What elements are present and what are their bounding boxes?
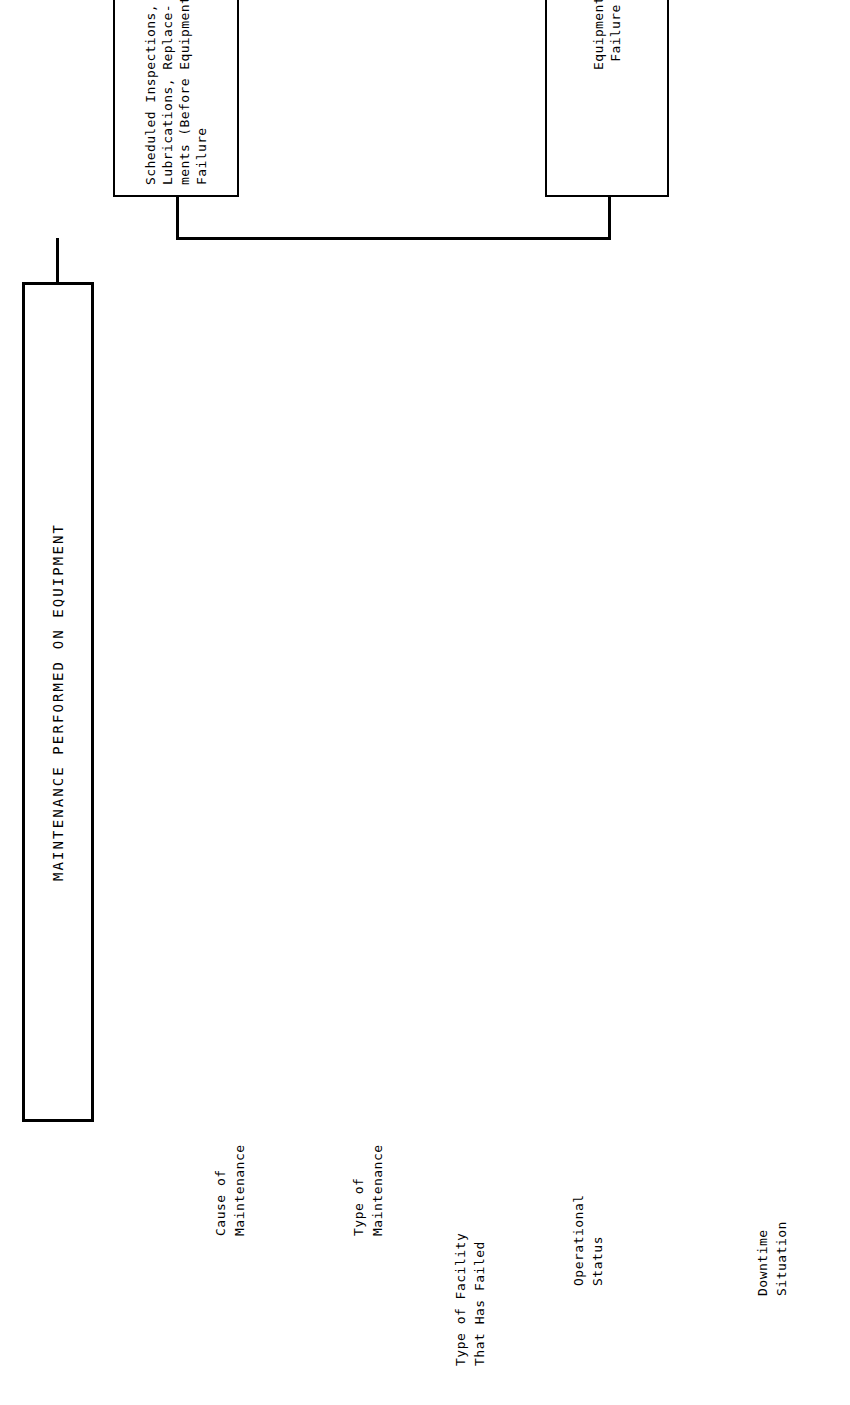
row-label-type-of-maintenance: Type of Maintenance bbox=[350, 1144, 388, 1236]
diagram-canvas: MAINTENANCE PERFORMED ON EQUIPMENT Sched… bbox=[0, 0, 850, 1405]
row-label-operational-status: Operational Status bbox=[570, 1194, 608, 1286]
connector-root-to-scheduled bbox=[176, 196, 179, 240]
node-equipment-failure: Equipment Failure bbox=[545, 0, 669, 197]
node-root: MAINTENANCE PERFORMED ON EQUIPMENT bbox=[22, 282, 94, 1122]
connector-root-stem bbox=[56, 238, 59, 282]
row-label-cause-of-maintenance: Cause of Maintenance bbox=[212, 1144, 250, 1236]
connector-root-to-equipment-failure bbox=[608, 196, 611, 240]
node-scheduled-inspections: Scheduled Inspections, Lubrications, Rep… bbox=[113, 0, 239, 197]
connector-root-split bbox=[176, 238, 610, 241]
row-label-type-of-facility: Type of Facility That Has Failed bbox=[452, 1233, 490, 1366]
row-label-downtime-situation: Downtime Situation bbox=[754, 1221, 792, 1296]
diagram-stage: MAINTENANCE PERFORMED ON EQUIPMENT Sched… bbox=[0, 0, 850, 1405]
